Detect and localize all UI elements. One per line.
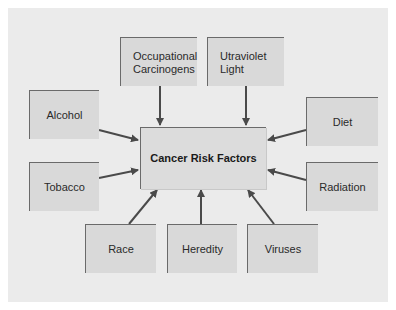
factor-label-line2: Carcinogens <box>133 63 195 76</box>
factor-label: Race <box>108 243 134 256</box>
center-label: Cancer Risk Factors <box>150 152 256 165</box>
factor-tobacco: Tobacco <box>29 162 99 211</box>
factor-label: Diet <box>333 116 353 129</box>
center-cancer-risk-factors: Cancer Risk Factors <box>140 127 266 189</box>
factor-label: Alcohol <box>46 109 82 122</box>
factor-ultraviolet-light: Utraviolet Light <box>207 37 284 86</box>
factor-alcohol: Alcohol <box>29 90 99 139</box>
factor-race: Race <box>85 224 156 273</box>
factor-label: Heredity <box>182 243 223 256</box>
factor-label: Viruses <box>265 243 301 256</box>
factor-occupational-carcinogens: Occupational Carcinogens <box>120 37 197 86</box>
factor-viruses: Viruses <box>247 224 318 273</box>
factor-label: Tobacco <box>44 181 85 194</box>
factor-heredity: Heredity <box>167 224 237 273</box>
factor-label-line2: Light <box>220 63 244 76</box>
factor-label-line1: Utraviolet <box>220 50 266 63</box>
factor-label-line1: Occupational <box>133 50 197 63</box>
factor-radiation: Radiation <box>306 162 378 211</box>
factor-label: Radiation <box>319 181 365 194</box>
factor-diet: Diet <box>306 97 378 146</box>
